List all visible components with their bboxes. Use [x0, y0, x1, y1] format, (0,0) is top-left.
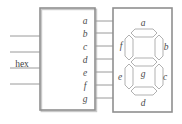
- output-label-d: d: [83, 55, 88, 65]
- output-label-e: e: [83, 68, 87, 78]
- segment-d: [131, 87, 157, 95]
- segment-label-b: b: [164, 42, 169, 52]
- segment-label-e: e: [118, 72, 122, 82]
- segment-label-g: g: [141, 69, 146, 79]
- decoder-block-shadow: [41, 9, 96, 111]
- output-label-f: f: [84, 81, 88, 91]
- output-label-b: b: [83, 29, 88, 39]
- output-label-c: c: [83, 42, 88, 52]
- segment-label-f: f: [120, 41, 124, 51]
- segment-a: [131, 29, 157, 37]
- segment-g: [131, 58, 157, 66]
- diagram-svg: a b c d e f g a b c d e f g hex: [0, 0, 182, 124]
- segment-label-d: d: [141, 98, 146, 108]
- decoder-block: [40, 8, 96, 111]
- segment-c: [155, 64, 163, 89]
- segment-f: [125, 35, 133, 60]
- segment-label-a: a: [141, 18, 146, 28]
- segment-b: [155, 35, 163, 60]
- output-label-a: a: [83, 16, 88, 26]
- hex-label: hex: [15, 59, 29, 69]
- output-label-g: g: [83, 94, 88, 104]
- segment-label-c: c: [163, 72, 168, 82]
- seven-segments: [125, 29, 163, 95]
- segment-e: [125, 64, 133, 89]
- output-wires: [95, 21, 113, 98]
- diagram-canvas: a b c d e f g a b c d e f g hex: [0, 0, 182, 124]
